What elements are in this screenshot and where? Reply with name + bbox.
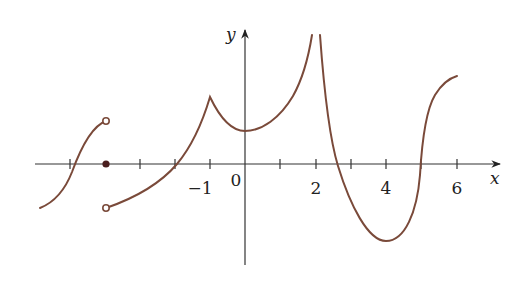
open-circle-lower (103, 205, 109, 211)
x-tick-label: 6 (452, 178, 463, 198)
curve-piece-3 (320, 35, 457, 241)
origin-label: 0 (231, 170, 242, 190)
open-circle-upper (103, 118, 109, 124)
x-axis-label: x (490, 168, 500, 188)
x-tick-label: −1 (187, 178, 212, 198)
filled-point (102, 160, 109, 167)
y-axis-label: y (225, 24, 236, 44)
function-graph: −1 0 2 4 6 x y (0, 0, 531, 283)
x-tick-label: 2 (311, 178, 322, 198)
x-tick-label: 4 (381, 178, 392, 198)
